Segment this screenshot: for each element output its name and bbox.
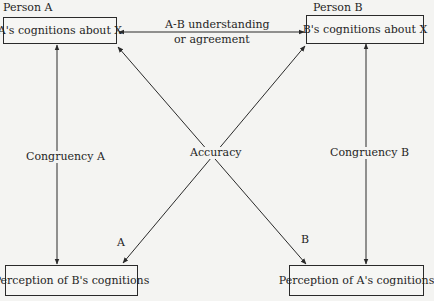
accuracy-a-marker: A bbox=[117, 237, 125, 249]
congruency-a-label: Congruency A bbox=[24, 151, 107, 163]
box-a-cognitions: A's cognitions about X bbox=[3, 17, 117, 44]
accuracy-label: Accuracy bbox=[188, 147, 244, 159]
understanding-label-line2: or agreement bbox=[174, 34, 250, 46]
box-b-cognitions: B's cognitions about X bbox=[306, 15, 424, 44]
understanding-label-line1: A-B understanding bbox=[165, 19, 270, 31]
box-b-cognitions-text: B's cognitions about X bbox=[303, 24, 428, 36]
box-perception-b-text: Perception of B's cognitions bbox=[0, 275, 149, 287]
box-perception-b: Perception of B's cognitions bbox=[5, 265, 138, 296]
box-perception-a-text: Perception of A's cognitions bbox=[279, 275, 434, 287]
box-a-cognitions-text: A's cognitions about X bbox=[0, 25, 122, 37]
person-a-label: Person A bbox=[3, 2, 52, 14]
accuracy-b-marker: B bbox=[301, 234, 309, 246]
box-perception-a: Perception of A's cognitions bbox=[289, 265, 424, 296]
person-b-label: Person B bbox=[313, 2, 363, 14]
congruency-b-label: Congruency B bbox=[328, 147, 411, 159]
